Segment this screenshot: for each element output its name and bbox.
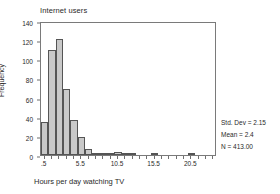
x-axis: .55.510.515.520.5 [40, 156, 216, 176]
histogram-bar [129, 153, 136, 155]
histogram-bar [122, 153, 129, 155]
x-tick-mark [176, 156, 177, 159]
x-tick-mark [132, 156, 133, 159]
histogram-bar [188, 153, 195, 155]
x-tick-mark [154, 156, 155, 159]
y-axis: Frequency 020406080100120140 [0, 22, 40, 157]
x-tick-label: .5 [41, 160, 46, 167]
y-tick-label: 40 [26, 115, 33, 122]
statistics-annotation: Std. Dev = 2.15 Mean = 2.4 N = 413.00 [221, 117, 266, 153]
plot-frame [40, 22, 216, 156]
x-tick-label: 15.5 [147, 160, 160, 167]
y-tick-label: 80 [26, 77, 33, 84]
x-tick-mark [117, 156, 118, 159]
x-tick-mark [190, 156, 191, 159]
plot-area [41, 23, 215, 155]
x-tick-mark [198, 156, 199, 159]
histogram-bar [100, 153, 107, 155]
y-tick-label: 120 [22, 39, 33, 46]
y-tick-label: 0 [29, 154, 33, 161]
x-tick-mark [73, 156, 74, 159]
histogram-bar [114, 152, 121, 155]
histogram-bar [56, 39, 63, 155]
x-tick-mark [110, 156, 111, 159]
y-tick-label: 20 [26, 134, 33, 141]
x-tick-mark [58, 156, 59, 159]
x-tick-mark [183, 156, 184, 159]
histogram-bar [85, 149, 92, 155]
x-axis-title: Hours per day watching TV [34, 177, 124, 186]
histogram-bar [78, 137, 85, 155]
x-tick-mark [124, 156, 125, 159]
x-tick-label: 20.5 [184, 160, 197, 167]
stat-std-dev: Std. Dev = 2.15 [221, 117, 266, 129]
y-tick-label: 60 [26, 96, 33, 103]
histogram-bar [63, 89, 70, 155]
x-tick-mark [161, 156, 162, 159]
x-tick-mark [44, 156, 45, 159]
x-tick-mark [88, 156, 89, 159]
histogram-bar [48, 50, 55, 155]
x-tick-label: 10.5 [111, 160, 124, 167]
x-tick-mark [66, 156, 67, 159]
histogram-bar [70, 120, 77, 155]
x-tick-mark [212, 156, 213, 159]
y-axis-title: Frequency [0, 64, 5, 97]
x-tick-mark [139, 156, 140, 159]
stat-n: N = 413.00 [221, 141, 266, 153]
chart-title: Internet users [40, 6, 87, 15]
x-tick-mark [95, 156, 96, 159]
x-tick-mark [168, 156, 169, 159]
x-tick-mark [80, 156, 81, 159]
histogram-bar [107, 153, 114, 155]
y-tick-label: 100 [22, 58, 33, 65]
histogram-bar [151, 153, 158, 155]
y-tick-label: 140 [22, 20, 33, 27]
stat-mean: Mean = 2.4 [221, 129, 266, 141]
x-tick-label: 5.5 [76, 160, 85, 167]
histogram-figure: Internet users Frequency 020406080100120… [0, 0, 280, 194]
histogram-bar [92, 153, 99, 155]
x-tick-mark [51, 156, 52, 159]
histogram-bar [41, 122, 48, 156]
x-tick-mark [102, 156, 103, 159]
x-tick-mark [146, 156, 147, 159]
x-tick-mark [205, 156, 206, 159]
